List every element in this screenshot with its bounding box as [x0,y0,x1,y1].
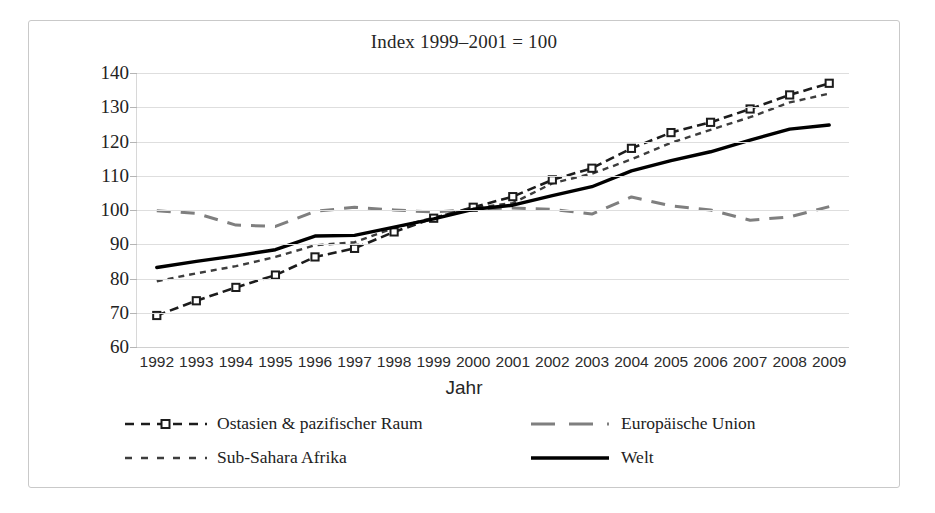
y-tick-130 [130,107,137,108]
series-line-ostasien-pazifischer-raum [157,83,829,315]
data-point-marker [391,228,398,235]
legend-item-sub-sahara-afrika[interactable]: Sub-Sahara Afrika [125,447,347,468]
data-point-marker [509,193,516,200]
x-tick-label-1994: 1994 [214,353,258,371]
x-tick-label-1993: 1993 [174,353,218,371]
data-point-marker [588,165,595,172]
y-tick-70 [130,313,137,314]
data-point-marker [193,297,200,304]
chart-title: Index 1999–2001 = 100 [29,31,899,53]
gridline-120 [137,142,849,143]
legend-item-welt[interactable]: Welt [529,447,654,468]
x-tick-label-2000: 2000 [451,353,495,371]
y-tick-label-70: 70 [83,303,129,322]
legend-label: Sub-Sahara Afrika [217,447,347,468]
x-tick-label-1997: 1997 [333,353,377,371]
gridline-80 [137,279,849,280]
y-tick-label-90: 90 [83,234,129,253]
gridline-140 [137,73,849,74]
legend-item-ostasien-pazifischer-raum[interactable]: Ostasien & pazifischer Raum [125,413,423,434]
y-tick-label-100: 100 [83,200,129,219]
data-point-marker [707,119,714,126]
dashed-square-marker-icon [125,417,207,431]
x-axis-title: Jahr [29,377,899,399]
y-tick-100 [130,210,137,211]
series-line-welt [157,125,829,267]
legend-label: Welt [621,447,654,468]
data-point-marker [232,284,239,291]
y-tick-label-80: 80 [83,269,129,288]
x-tick-label-2001: 2001 [491,353,535,371]
gridline-70 [137,313,849,314]
y-tick-60 [130,347,137,348]
fine-dashed-icon [125,451,207,465]
data-point-marker [311,253,318,260]
data-point-marker [351,245,358,252]
data-point-marker [628,145,635,152]
x-tick-label-2005: 2005 [649,353,693,371]
chart-legend: Ostasien & pazifischer RaumEuropäische U… [125,413,865,477]
x-tick-label-2004: 2004 [609,353,653,371]
legend-item-europ-ische-union[interactable]: Europäische Union [529,413,756,434]
plot-area [137,73,849,347]
x-tick-label-1992: 1992 [135,353,179,371]
y-tick-80 [130,279,137,280]
data-point-marker [786,91,793,98]
gridline-130 [137,107,849,108]
data-point-marker [826,80,833,87]
y-tick-110 [130,176,137,177]
gridline-60 [137,347,849,348]
x-tick-label-2008: 2008 [768,353,812,371]
x-tick-label-1998: 1998 [372,353,416,371]
y-tick-label-60: 60 [83,337,129,356]
x-tick-label-1995: 1995 [253,353,297,371]
legend-label: Ostasien & pazifischer Raum [217,413,423,434]
x-tick-label-1999: 1999 [412,353,456,371]
chart-figure: Index 1999–2001 = 100 140130120110100908… [28,20,900,488]
y-tick-120 [130,142,137,143]
y-tick-140 [130,73,137,74]
data-point-marker [549,176,556,183]
x-tick-label-1996: 1996 [293,353,337,371]
x-tick-label-2009: 2009 [807,353,851,371]
y-tick-label-110: 110 [83,166,129,185]
gridline-90 [137,244,849,245]
y-axis-labels: 14013012011010090807060 [67,73,129,347]
gridline-110 [137,176,849,177]
solid-thick-icon [529,451,611,465]
legend-label: Europäische Union [621,413,756,434]
x-tick-label-2007: 2007 [728,353,772,371]
y-tick-label-120: 120 [83,132,129,151]
x-tick-label-2002: 2002 [530,353,574,371]
gridline-100 [137,210,849,211]
y-tick-label-140: 140 [83,63,129,82]
data-point-marker [667,129,674,136]
long-dashed-icon [529,417,611,431]
y-tick-label-130: 130 [83,97,129,116]
x-tick-label-2006: 2006 [689,353,733,371]
y-tick-90 [130,244,137,245]
x-tick-label-2003: 2003 [570,353,614,371]
x-axis-labels: 1992199319941995199619971998199920002001… [137,353,849,377]
